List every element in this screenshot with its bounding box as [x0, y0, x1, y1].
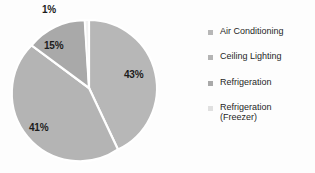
legend-swatch-icon [208, 106, 213, 111]
legend-swatch-icon [208, 30, 213, 35]
legend-item-refrigeration-freezer: Refrigeration (Freezer) [208, 102, 315, 123]
legend-item-label: Refrigeration [220, 77, 272, 87]
pie-svg [0, 0, 186, 173]
legend-item-label: Air Conditioning [220, 26, 284, 36]
pie-plot-area: 1% 43% 15% 41% [0, 0, 186, 173]
legend-item-refrigeration: Refrigeration [208, 77, 315, 87]
legend-item-ceiling-lighting: Ceiling Lighting [208, 51, 315, 61]
chart-legend: Air Conditioning Ceiling Lighting Refrig… [208, 26, 315, 123]
slice-label-refrigeration-freezer: 1% [42, 4, 56, 15]
slice-label-ceiling-lighting: 41% [29, 122, 48, 133]
legend-swatch-icon [208, 55, 213, 60]
slice-label-air-conditioning: 43% [124, 69, 143, 80]
pie-chart-figure: 1% 43% 15% 41% Air Conditioning Ceiling … [0, 0, 315, 173]
legend-item-label: Ceiling Lighting [220, 51, 282, 61]
legend-swatch-icon [208, 81, 213, 86]
legend-item-air-conditioning: Air Conditioning [208, 26, 315, 36]
legend-item-label: Refrigeration (Freezer) [220, 102, 272, 123]
slice-label-refrigeration: 15% [44, 40, 63, 51]
